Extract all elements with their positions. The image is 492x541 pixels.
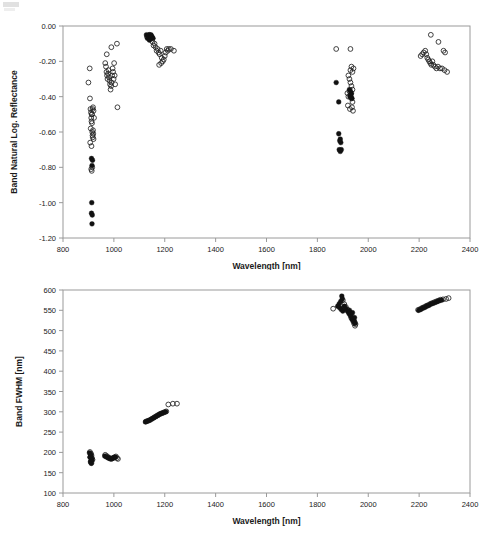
data-point-open: [428, 32, 433, 37]
plot-frame: [63, 26, 470, 238]
y-tick-label: 200: [43, 448, 56, 457]
x-tick-label: 800: [57, 500, 70, 509]
data-point-open: [86, 80, 91, 85]
data-point-open: [112, 61, 117, 66]
x-tick-label: 2000: [360, 500, 377, 509]
y-axis-label: Band Natural Log. Reflectance: [9, 70, 19, 194]
series-filled-markers: [87, 294, 444, 466]
y-tick-label: 100: [43, 489, 56, 498]
y-tick-label: 150: [43, 469, 56, 478]
x-tick-label: 1400: [207, 245, 224, 254]
data-point-filled: [439, 298, 444, 303]
x-tick-label: 1200: [156, 500, 173, 509]
data-point-filled: [90, 213, 95, 218]
x-tick-label: 2200: [411, 500, 428, 509]
data-point-filled: [347, 308, 352, 313]
chart-band-fwhm: 1001502002503003504004505005506008001000…: [0, 270, 492, 541]
data-point-open: [87, 66, 92, 71]
x-tick-label: 1600: [258, 500, 275, 509]
x-tick-label: 1400: [207, 500, 224, 509]
y-tick-label: 0.00: [41, 22, 56, 31]
x-tick-label: 1800: [309, 500, 326, 509]
data-point-open: [115, 41, 120, 46]
series-open-markers: [86, 32, 449, 173]
data-point-open: [334, 47, 339, 52]
y-tick-label: 400: [43, 367, 56, 376]
data-point-filled: [89, 461, 94, 466]
series-open-markers: [88, 296, 451, 466]
y-tick-label: 550: [43, 306, 56, 315]
data-point-filled: [334, 80, 339, 85]
data-point-filled: [336, 131, 341, 136]
scatter-plot-reflectance: 0.00-0.20-0.40-0.60-0.80-1.00-1.20800100…: [0, 0, 492, 270]
data-point-open: [331, 306, 336, 311]
x-tick-label: 2000: [360, 245, 377, 254]
x-tick-label: 1000: [106, 500, 123, 509]
data-point-filled: [90, 158, 95, 163]
y-tick-label: -0.80: [39, 163, 56, 172]
data-point-filled: [113, 455, 118, 460]
data-point-filled: [163, 409, 168, 414]
y-tick-label: -1.00: [39, 199, 56, 208]
data-point-open: [109, 45, 114, 50]
plot-frame: [63, 290, 470, 493]
data-point-open: [88, 96, 93, 101]
y-tick-label: 600: [43, 286, 56, 295]
x-axis-label: Wavelength [nm]: [232, 516, 300, 526]
y-tick-label: 450: [43, 347, 56, 356]
x-tick-label: 1800: [309, 245, 326, 254]
data-point-open: [115, 105, 120, 110]
x-tick-label: 2400: [462, 245, 479, 254]
x-tick-label: 1200: [156, 245, 173, 254]
y-tick-label: 350: [43, 388, 56, 397]
x-tick-label: 800: [57, 245, 70, 254]
x-tick-label: 1000: [106, 245, 123, 254]
x-tick-label: 2400: [462, 500, 479, 509]
data-point-filled: [336, 100, 341, 105]
y-tick-label: -1.20: [39, 234, 56, 243]
x-axis-label: Wavelength [nm]: [232, 261, 300, 270]
data-point-filled: [90, 221, 95, 226]
y-tick-label: 250: [43, 428, 56, 437]
data-point-filled: [89, 200, 94, 205]
data-point-open: [166, 402, 171, 407]
y-tick-label: -0.60: [39, 128, 56, 137]
data-point-filled: [337, 138, 342, 143]
figure-container: 0.00-0.20-0.40-0.60-0.80-1.00-1.20800100…: [0, 0, 492, 541]
y-tick-label: 300: [43, 408, 56, 417]
x-tick-label: 2200: [411, 245, 428, 254]
series-filled-markers: [89, 32, 354, 226]
data-point-filled: [339, 147, 344, 152]
data-point-open: [348, 47, 353, 52]
x-tick-label: 1600: [258, 245, 275, 254]
chart-band-log-reflectance: 0.00-0.20-0.40-0.60-0.80-1.00-1.20800100…: [0, 0, 492, 270]
y-tick-label: 500: [43, 327, 56, 336]
data-point-filled: [350, 96, 355, 101]
data-point-open: [436, 40, 441, 45]
data-point-filled: [90, 163, 95, 168]
data-point-filled: [147, 38, 152, 43]
data-point-open: [104, 52, 109, 57]
scatter-plot-fwhm: 1001502002503003504004505005506008001000…: [0, 270, 492, 541]
y-tick-label: -0.20: [39, 57, 56, 66]
data-point-filled: [353, 321, 358, 326]
y-axis-label: Band FWHM [nm]: [14, 356, 24, 427]
y-tick-label: -0.40: [39, 93, 56, 102]
data-point-filled: [352, 315, 357, 320]
